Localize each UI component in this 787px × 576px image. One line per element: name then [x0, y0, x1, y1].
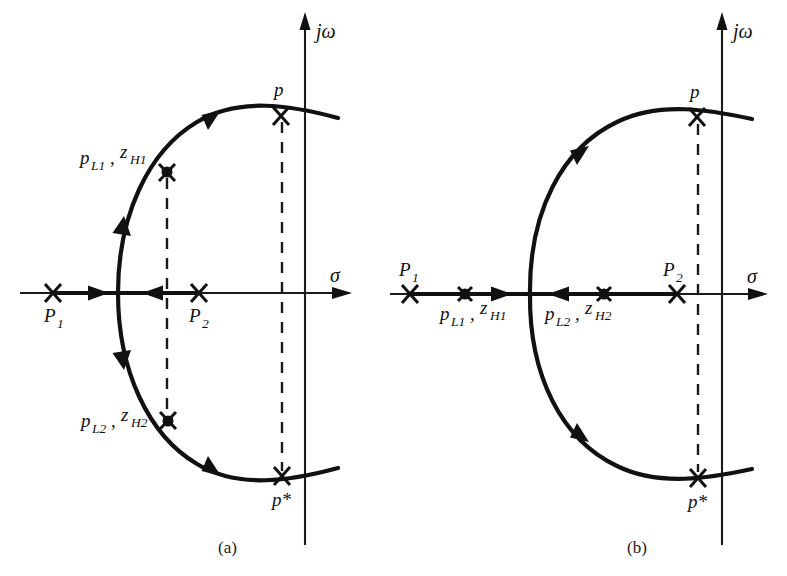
panel-a-imaginary-axis-label: jω	[313, 20, 336, 43]
panel-b-label-P1-subscript: 1	[412, 270, 419, 285]
panel-b-label-pL1-comma: ,	[470, 303, 475, 324]
figure-canvas: jω σ P 1 P 2 p p* p L1 , z H1 p L2 , z H…	[0, 0, 787, 576]
panel-a-real-axis-label: σ	[330, 264, 341, 286]
panel-b-label-pL2-base: p	[543, 303, 555, 324]
panel-a-label-zH1-subscript: H1	[129, 152, 147, 167]
panel-b-label-zH1-base: z	[479, 297, 488, 318]
panel-b-label-p: p	[688, 81, 700, 102]
panel-b-label-pL1-base: p	[438, 303, 450, 324]
panel-a-label-P2-subscript: 2	[202, 316, 209, 331]
panel-a-caption: (a)	[218, 538, 237, 557]
panel-a-label-zH2-subscript: H2	[130, 415, 148, 430]
panel-a-label-pL1-comma: ,	[110, 147, 115, 168]
panel-a-label-p-conjugate: p*	[270, 489, 292, 510]
panel-a-label-pL2-comma: ,	[111, 410, 116, 431]
panel-b-label-P2-subscript: 2	[676, 270, 683, 285]
panel-a-label-zH2-base: z	[120, 404, 129, 425]
panel-a-label-P1-base: P	[43, 305, 56, 326]
panel-b-label-P1-base: P	[398, 259, 411, 280]
panel-a-label-p: p	[272, 79, 284, 100]
panel-a-label-pL1-subscript: L1	[90, 158, 105, 173]
panel-b-label-pL1-subscript: L1	[450, 314, 465, 329]
panel-b-imaginary-axis-label: jω	[730, 20, 753, 43]
panel-b-label-zH2-subscript: H2	[594, 308, 612, 323]
panel-a-label-pL2-base: p	[79, 410, 91, 431]
panel-a-label-P2-base: P	[188, 305, 201, 326]
root-locus-figure: jω σ P 1 P 2 p p* p L1 , z H1 p L2 , z H…	[0, 0, 787, 576]
panel-b-label-zH1-subscript: H1	[489, 308, 507, 323]
panel-a-label-pL2-subscript: L2	[91, 421, 107, 436]
panel-b-label-pL2-subscript: L2	[555, 314, 571, 329]
panel-b-label-P2-base: P	[662, 259, 675, 280]
panel-b-label-p-conjugate: p*	[686, 491, 708, 512]
panel-b-label-zH2-base: z	[584, 297, 593, 318]
panel-a-label-pL1-base: p	[78, 147, 90, 168]
panel-b-marker-pL2-zH2[interactable]	[597, 287, 611, 301]
panel-b-real-axis-label: σ	[747, 265, 758, 287]
panel-b-marker-pL1-zH1[interactable]	[458, 287, 472, 301]
panel-b-caption: (b)	[627, 538, 647, 557]
panel-a-label-P1-subscript: 1	[57, 316, 64, 331]
panel-b-label-pL2-comma: ,	[575, 303, 580, 324]
panel-a-label-zH1-base: z	[119, 141, 128, 162]
